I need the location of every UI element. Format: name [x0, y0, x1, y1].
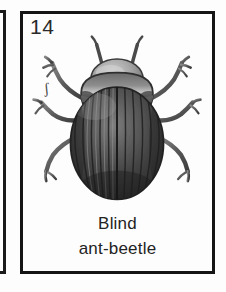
- caption: Blind ant-beetle: [23, 211, 212, 261]
- leg-middle-left: [34, 100, 80, 121]
- species-card: 14 ʃ: [20, 11, 215, 274]
- leg-front-right: [151, 57, 191, 99]
- beetle-illustration-svg: [23, 28, 212, 213]
- caption-line-2: ant-beetle: [23, 236, 212, 261]
- card-page: 14 ʃ: [0, 0, 226, 292]
- caption-line-1: Blind: [23, 211, 212, 236]
- adjacent-card-partial-frame: [0, 10, 6, 274]
- leg-middle-right: [155, 100, 201, 121]
- beetle-elytra: [62, 87, 172, 213]
- leg-front-left: [43, 57, 83, 99]
- beetle-illustration: [23, 28, 212, 213]
